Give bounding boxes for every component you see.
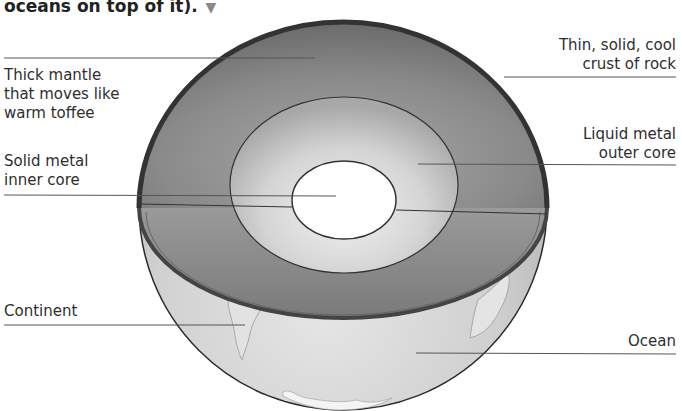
label-line: Ocean (628, 332, 676, 351)
label-line: Thick mantle (4, 66, 119, 85)
label-outer-core: Liquid metal outer core (583, 125, 676, 163)
label-line: Thin, solid, cool (559, 36, 676, 55)
label-line: Liquid metal (583, 125, 676, 144)
label-continent: Continent (4, 302, 77, 321)
label-line: warm toffee (4, 104, 119, 123)
label-ocean: Ocean (628, 332, 676, 351)
label-line: inner core (4, 171, 88, 190)
label-mantle: Thick mantle that moves like warm toffee (4, 66, 119, 123)
inner-core-layer (292, 161, 396, 239)
label-line: crust of rock (559, 55, 676, 74)
label-crust: Thin, solid, cool crust of rock (559, 36, 676, 74)
label-line: Continent (4, 302, 77, 321)
label-line: outer core (583, 144, 676, 163)
label-inner-core: Solid metal inner core (4, 152, 88, 190)
label-line: that moves like (4, 85, 119, 104)
label-line: Solid metal (4, 152, 88, 171)
